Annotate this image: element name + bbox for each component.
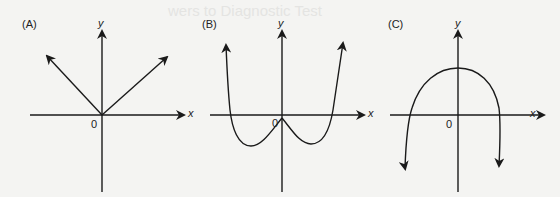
graph-a-x-label: x bbox=[188, 107, 194, 119]
graph-a-left-ray bbox=[47, 56, 102, 115]
graph-b-y-label: y bbox=[278, 17, 284, 29]
graph-c-y-label: y bbox=[455, 17, 461, 29]
panel-a-label: (A) bbox=[22, 18, 37, 30]
graph-a-y-label: y bbox=[98, 17, 104, 29]
graph-c bbox=[390, 31, 544, 192]
graph-c-x-label: x bbox=[530, 107, 536, 119]
panel-b-label: (B) bbox=[202, 18, 217, 30]
graph-a bbox=[30, 31, 184, 192]
graph-c-origin-label: 0 bbox=[446, 118, 452, 130]
graph-c-curve bbox=[405, 68, 500, 168]
graph-b-left-branch bbox=[226, 45, 282, 146]
graphs-canvas bbox=[0, 0, 560, 197]
graph-b bbox=[210, 31, 364, 192]
graph-a-origin-label: 0 bbox=[91, 118, 97, 130]
graph-a-right-ray bbox=[102, 57, 167, 115]
panel-c-label: (C) bbox=[388, 18, 403, 30]
graph-b-x-label: x bbox=[368, 107, 374, 119]
graph-b-origin-label: 0 bbox=[272, 117, 278, 129]
graph-b-right-branch bbox=[282, 43, 343, 144]
